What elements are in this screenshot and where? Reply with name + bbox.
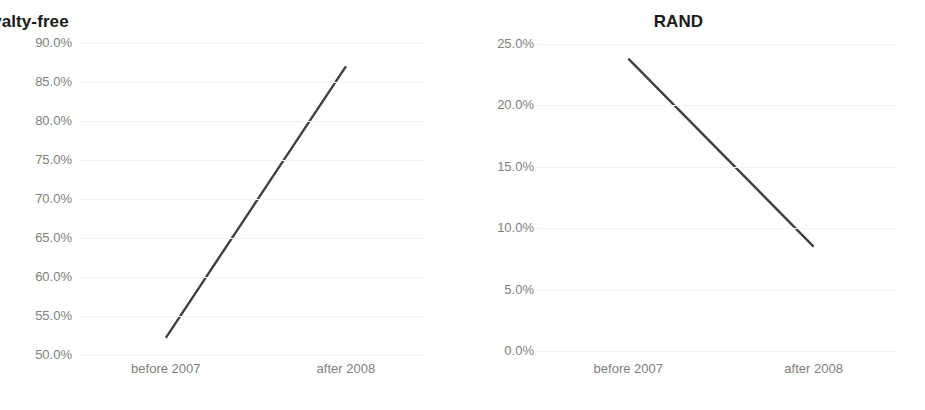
y-tick-label: 50.0% bbox=[35, 348, 72, 361]
gridline bbox=[78, 355, 425, 356]
plot-area-rand bbox=[538, 44, 895, 351]
gridline bbox=[78, 160, 425, 161]
y-tick-label: 15.0% bbox=[497, 160, 534, 173]
data-line-rand bbox=[628, 59, 813, 247]
gridline bbox=[538, 105, 895, 106]
gridline bbox=[78, 121, 425, 122]
y-tick-label: 80.0% bbox=[35, 114, 72, 127]
data-line-royalty-free bbox=[166, 66, 346, 337]
x-tick-label: before 2007 bbox=[131, 362, 200, 375]
y-tick-label: 85.0% bbox=[35, 75, 72, 88]
y-tick-label: 0.0% bbox=[504, 344, 534, 357]
gridline bbox=[538, 351, 895, 352]
y-tick-label: 20.0% bbox=[497, 98, 534, 111]
gridline bbox=[78, 199, 425, 200]
y-axis-labels-royalty-free: 50.0%55.0%60.0%65.0%70.0%75.0%80.0%85.0%… bbox=[0, 0, 72, 410]
gridline bbox=[78, 277, 425, 278]
gridline bbox=[538, 290, 895, 291]
x-tick-label: after 2008 bbox=[784, 362, 843, 375]
y-tick-label: 65.0% bbox=[35, 231, 72, 244]
y-tick-label: 25.0% bbox=[497, 37, 534, 50]
gridline bbox=[538, 228, 895, 229]
plot-area-royalty-free bbox=[78, 43, 425, 355]
gridline bbox=[78, 316, 425, 317]
y-tick-label: 90.0% bbox=[35, 36, 72, 49]
y-tick-label: 60.0% bbox=[35, 270, 72, 283]
gridline bbox=[538, 167, 895, 168]
y-tick-label: 5.0% bbox=[504, 283, 534, 296]
gridline bbox=[78, 43, 425, 44]
series-line-rand bbox=[538, 44, 895, 351]
y-tick-label: 10.0% bbox=[497, 221, 534, 234]
y-tick-label: 55.0% bbox=[35, 309, 72, 322]
y-axis-labels-rand: 0.0%5.0%10.0%15.0%20.0%25.0% bbox=[462, 0, 534, 410]
gridline bbox=[78, 82, 425, 83]
y-tick-label: 75.0% bbox=[35, 153, 72, 166]
gridline bbox=[78, 238, 425, 239]
y-tick-label: 70.0% bbox=[35, 192, 72, 205]
gridline bbox=[538, 44, 895, 45]
x-tick-label: before 2007 bbox=[594, 362, 663, 375]
x-tick-label: after 2008 bbox=[317, 362, 376, 375]
